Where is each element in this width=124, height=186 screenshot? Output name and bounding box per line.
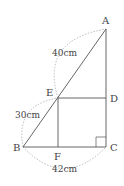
label-f: F [54, 151, 61, 162]
label-c: C [110, 142, 118, 153]
label-a: A [101, 15, 110, 26]
right-angle-marker [96, 137, 106, 147]
length-bc: 42cm [52, 164, 77, 174]
label-b: B [13, 142, 20, 153]
length-ae: 40cm [52, 48, 77, 58]
label-d: D [110, 93, 118, 104]
side-ab [23, 29, 106, 147]
geometry-diagram: A B C D E F 40cm 30cm 42cm [0, 0, 124, 186]
length-eb: 30cm [15, 110, 40, 120]
label-e: E [46, 87, 53, 98]
